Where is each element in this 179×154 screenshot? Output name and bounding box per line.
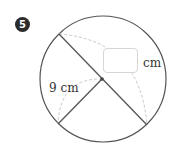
problem-number: 5 (19, 20, 26, 30)
answer-input[interactable] (103, 48, 138, 73)
center-point (100, 77, 104, 81)
problem-5-diagram: 5 cm 9 cm (0, 0, 179, 154)
answer-unit-label: cm (143, 57, 161, 69)
problem-number-badge: 5 (15, 17, 30, 32)
given-radius-label: 9 cm (49, 82, 79, 94)
